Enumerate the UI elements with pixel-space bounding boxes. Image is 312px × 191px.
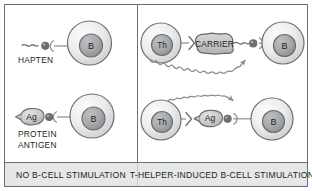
protein-antigen-label-line2: ANTIGEN: [18, 140, 57, 150]
carrier-hapten-knob-icon: [249, 39, 257, 47]
carrier-hapten-knob-highlight: [251, 41, 254, 44]
right-panel-caption: T-HELPER-INDUCED B-CELL STIMULATION: [130, 170, 312, 180]
hapten-knob-highlight: [43, 43, 46, 46]
carrier-blob-label: CARRIER: [195, 39, 234, 49]
left-panel-caption: NO B-CELL STIMULATION: [16, 170, 126, 180]
hapten-knob-icon: [41, 42, 49, 50]
b-cell-nucleus-label-4: B: [270, 117, 276, 127]
protein-antigen-blob-label: Ag: [26, 112, 37, 122]
immunology-diagram: HAPTEN B Ag PROTEIN ANTIGEN B Th: [0, 0, 312, 191]
ag-determinant-highlight-right: [225, 116, 228, 119]
th-cell-nucleus-label-2: Th: [157, 118, 167, 127]
protein-antigen-label-line1: PROTEIN: [18, 129, 57, 139]
b-cell-nucleus-label-1: B: [88, 41, 94, 51]
b-cell-nucleus-label-3: B: [281, 41, 287, 51]
protein-antigen-determinant-icon: [45, 113, 53, 121]
diagram-canvas: HAPTEN B Ag PROTEIN ANTIGEN B Th: [0, 0, 312, 191]
hapten-label: HAPTEN: [18, 55, 53, 65]
b-cell-nucleus-label-2: B: [90, 114, 96, 124]
protein-antigen-determinant-highlight: [47, 114, 50, 117]
ag-blob-label-right: Ag: [205, 113, 216, 123]
th-cell-nucleus-label-1: Th: [157, 41, 167, 50]
ag-determinant-icon-right: [224, 115, 232, 123]
